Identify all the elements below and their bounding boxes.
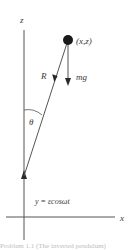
figure-caption: Problem 1.1 (The inverted pendulum) (0, 243, 133, 250)
angle-arc (24, 110, 42, 115)
z-axis-label: z (19, 15, 24, 25)
pendulum-diagram: z x (x,z) R mg θ y = εcosωt (0, 0, 133, 250)
angle-label: θ (29, 117, 34, 127)
x-axis-label: x (119, 213, 124, 223)
gravity-label: mg (76, 72, 87, 82)
mass-position-label: (x,z) (76, 36, 92, 46)
pendulum-rod (24, 40, 68, 176)
mass-point (63, 35, 73, 45)
gravity-arrow-icon (65, 78, 71, 86)
pivot-motion-label: y = εcosωt (34, 197, 70, 206)
rod-force-label: R (40, 71, 47, 81)
